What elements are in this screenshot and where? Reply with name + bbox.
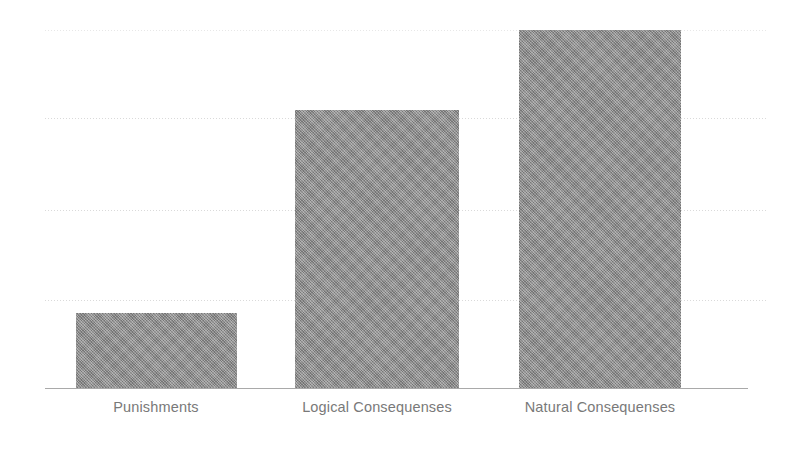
x-axis-label-natural-consequenses: Natural Consequenses	[490, 399, 710, 415]
plot-area: Punishments Logical Consequenses Natural…	[0, 0, 804, 449]
x-axis-baseline	[45, 388, 748, 389]
x-axis-label-logical-consequenses: Logical Consequenses	[267, 399, 487, 415]
bar-chart: Punishments Logical Consequenses Natural…	[0, 0, 804, 449]
bar-natural-consequenses[interactable]	[519, 30, 681, 388]
bar-logical-consequenses[interactable]	[295, 110, 459, 388]
x-axis-label-punishments: Punishments	[46, 399, 266, 415]
bar-punishments[interactable]	[76, 313, 237, 388]
